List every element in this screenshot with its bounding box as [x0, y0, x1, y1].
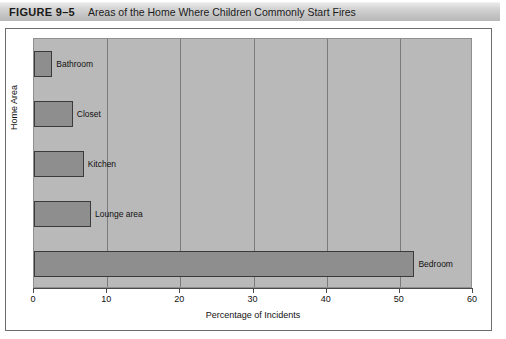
x-tick-label-40: 40 [321, 294, 331, 304]
figure-number: FIGURE 9–5 [9, 6, 75, 18]
x-tick-label-0: 0 [30, 294, 35, 304]
bar-label-closet: Closet [77, 110, 101, 119]
x-tick-50 [399, 288, 400, 293]
bar-label-bedroom: Bedroom [418, 260, 453, 269]
gridline-30 [254, 39, 255, 287]
gridline-40 [327, 39, 328, 287]
x-tick-40 [326, 288, 327, 293]
gridline-50 [400, 39, 401, 287]
bar-closet [34, 101, 73, 127]
bar-kitchen [34, 151, 84, 177]
bar-bedroom [34, 251, 414, 277]
x-tick-label-30: 30 [247, 294, 257, 304]
x-tick-60 [472, 288, 473, 293]
x-tick-30 [253, 288, 254, 293]
bar-lounge-area [34, 201, 91, 227]
figure-header-band: FIGURE 9–5 Areas of the Home Where Child… [0, 2, 500, 21]
plot-area: BathroomClosetKitchenLounge areaBedroom [33, 38, 472, 288]
bar-bathroom [34, 51, 52, 77]
gridline-20 [180, 39, 181, 287]
bar-label-kitchen: Kitchen [88, 160, 116, 169]
x-tick-label-60: 60 [467, 294, 477, 304]
bar-label-bathroom: Bathroom [56, 60, 93, 69]
x-tick-label-20: 20 [174, 294, 184, 304]
x-tick-20 [179, 288, 180, 293]
bar-label-lounge-area: Lounge area [95, 210, 143, 219]
figure-caption: Areas of the Home Where Children Commonl… [88, 6, 356, 18]
x-tick-label-10: 10 [101, 294, 111, 304]
y-axis-title: Home Area [9, 85, 19, 130]
x-tick-10 [106, 288, 107, 293]
x-tick-0 [33, 288, 34, 293]
x-axis-title: Percentage of Incidents [0, 310, 506, 320]
x-tick-label-50: 50 [394, 294, 404, 304]
